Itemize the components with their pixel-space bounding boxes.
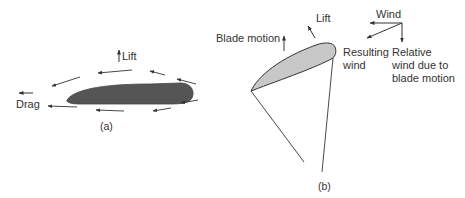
lift-label-b: Lift: [316, 12, 331, 24]
flow-arrow: [48, 106, 77, 107]
panel-b: Lift Blade motion Wind Resulting wind Re…: [216, 8, 455, 192]
caption-b: (b): [318, 180, 331, 192]
airfoil-diagram: Lift Drag (a) Lift: [0, 0, 465, 198]
resulting-wind-arrow: [367, 23, 402, 38]
lift-label-a: Lift: [122, 50, 137, 62]
resulting-wind-label: wind: [342, 59, 366, 71]
flow-arrow: [98, 70, 132, 73]
drag-label: Drag: [16, 98, 40, 110]
flow-arrow: [96, 110, 124, 111]
airfoil-a: [67, 83, 193, 104]
blade-motion-label: Blade motion: [216, 32, 280, 44]
resulting-wind-label: Resulting: [343, 46, 389, 58]
relative-wind-label: blade motion: [392, 72, 455, 84]
blade-line-left: [251, 91, 304, 162]
relative-wind-label: wind due to: [391, 59, 448, 71]
relative-wind-label: Relative: [392, 46, 432, 58]
airfoil-b: [251, 43, 336, 91]
flow-arrow: [150, 71, 165, 75]
panel-a: Lift Drag (a): [16, 50, 198, 132]
blade-line-right: [322, 58, 333, 172]
flow-arrow: [153, 108, 171, 111]
flow-arrow: [52, 77, 80, 86]
wind-label: Wind: [376, 8, 401, 20]
lift-arrow-b: [308, 26, 315, 38]
caption-a: (a): [100, 120, 113, 132]
